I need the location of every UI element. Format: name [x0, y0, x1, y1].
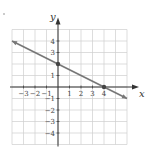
- x-axis-arrow-icon: [132, 85, 139, 90]
- y-axis-label: y: [49, 11, 56, 22]
- coordinate-plane: −3−2−11234431−1−2−3−4 x y: [0, 0, 148, 151]
- stray-dot: [3, 13, 5, 15]
- y-tick-label: −3: [45, 118, 55, 126]
- x-tick-label: −2: [30, 90, 40, 98]
- y-tick-label: 4: [51, 38, 56, 46]
- y-tick-label: −4: [45, 130, 56, 138]
- x-tick-label: 4: [102, 90, 107, 98]
- x-tick-label: 3: [90, 90, 94, 98]
- data-point: [56, 62, 60, 66]
- axes: [10, 18, 139, 147]
- y-tick-label: 1: [51, 72, 55, 80]
- x-axis-label: x: [139, 88, 145, 99]
- y-tick-label: 3: [51, 49, 55, 57]
- y-tick-label: −1: [45, 95, 55, 103]
- x-tick-label: 1: [67, 90, 71, 98]
- x-tick-label: −3: [18, 90, 28, 98]
- y-tick-label: −2: [45, 107, 55, 115]
- x-tick-label: 2: [79, 90, 83, 98]
- data-point: [102, 85, 106, 89]
- y-axis-arrow-icon: [56, 18, 61, 25]
